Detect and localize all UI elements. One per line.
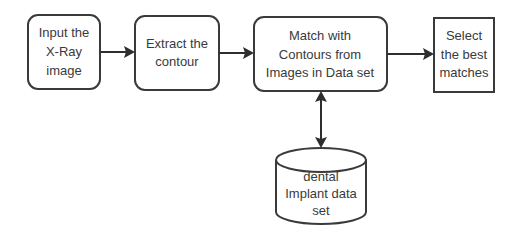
node-dental-dataset-line-1: dental: [303, 169, 339, 184]
node-match-contours-line-1: Match with: [289, 28, 351, 43]
node-input-xray: Input the X-Ray image: [28, 15, 100, 89]
node-input-xray-line-2: X-Ray: [46, 44, 83, 59]
edge-input-to-extract: [100, 46, 135, 58]
node-match-contours-line-2: Contours from: [279, 47, 361, 62]
node-select-best-line-1: Select: [446, 28, 483, 43]
edge-match-dataset-bidirectional: [315, 91, 327, 148]
node-extract-contour-line-2: contour: [155, 54, 199, 69]
node-dental-dataset: dental Implant data set: [276, 148, 366, 224]
node-extract-contour-line-1: Extract the: [146, 36, 208, 51]
node-dental-dataset-line-3: set: [312, 203, 330, 218]
node-input-xray-line-3: image: [46, 63, 81, 78]
node-match-contours: Match with Contours from Images in Data …: [254, 17, 387, 91]
edge-match-to-select: [387, 48, 434, 60]
node-extract-contour: Extract the contour: [135, 16, 219, 90]
node-input-xray-line-1: Input the: [39, 25, 90, 40]
node-extract-contour-shape: [135, 16, 219, 90]
edge-extract-to-match: [219, 47, 254, 59]
node-select-best-line-2: the best: [441, 47, 488, 62]
node-select-best: Select the best matches: [434, 18, 494, 92]
node-select-best-line-3: matches: [439, 65, 489, 80]
flowchart-canvas: Input the X-Ray image Extract the contou…: [0, 0, 519, 243]
node-match-contours-line-3: Images in Data set: [266, 65, 375, 80]
node-dental-dataset-line-2: Implant data: [285, 186, 357, 201]
